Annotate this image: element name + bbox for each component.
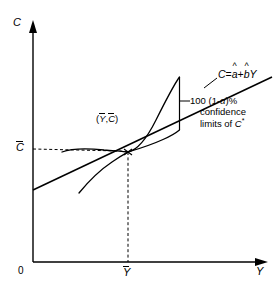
mean-point-x-symbol: Y — [99, 113, 105, 124]
equation-intercept: a — [232, 69, 238, 80]
fitted-regression-line — [33, 77, 272, 190]
confidence-caption-line-3: limits of C* — [190, 117, 246, 129]
confidence-prefix: 100 (1- — [190, 95, 220, 106]
limits-of-text: limits of — [200, 119, 235, 130]
equation-leader-line — [204, 78, 217, 88]
x-tick-symbol: Y — [123, 266, 130, 279]
origin-label: 0 — [18, 266, 24, 277]
mean-point-close-paren: ) — [115, 113, 118, 124]
confidence-caption-line-1: 100 (1-α)% — [190, 95, 246, 106]
y-tick-label-cbar: C — [16, 141, 24, 154]
upper-confidence-limit — [62, 77, 180, 152]
equation-lhs: C — [218, 68, 226, 80]
equation-variable: Y — [250, 68, 257, 80]
y-tick-symbol: C — [16, 141, 24, 154]
figure-canvas — [0, 0, 279, 293]
mean-point-label: (Y,C) — [96, 113, 118, 124]
confidence-limits-caption: 100 (1-α)% confidence limits of C* — [190, 95, 246, 130]
y-axis-label: C — [13, 17, 21, 29]
figure-container: C Y 0 Y C (Y,C) C=a+bY 100 (1-α)% confid… — [0, 0, 279, 293]
equation-slope: b — [244, 69, 250, 80]
limits-symbol: C — [235, 119, 242, 130]
mean-point-y-symbol: C — [108, 113, 115, 124]
y-axis — [29, 20, 37, 262]
x-axis-label: Y — [256, 266, 263, 278]
regression-equation-label: C=a+bY — [218, 69, 257, 80]
x-axis — [33, 258, 268, 266]
confidence-suffix: )% — [226, 95, 238, 106]
limits-star: * — [242, 117, 245, 124]
confidence-caption-line-2: confidence — [190, 106, 246, 117]
x-tick-label-ybar: Y — [123, 266, 130, 279]
